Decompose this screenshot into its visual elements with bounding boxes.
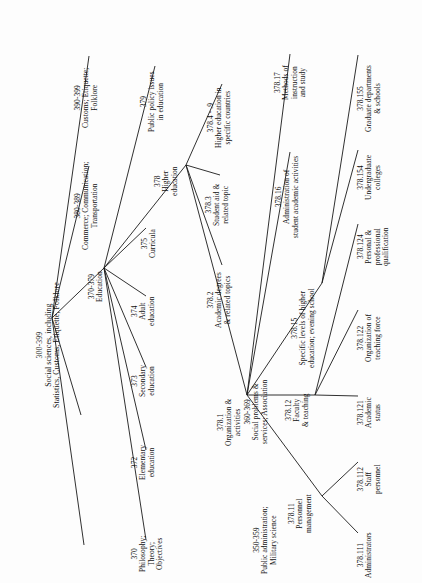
node-label: Faculty & teaching: [293, 393, 310, 427]
node-label: Public administration; Military science: [261, 506, 278, 574]
tree-node-n374[interactable]: 374Adult education: [131, 296, 156, 326]
tree-edge-n37812-to-n378124: [315, 224, 358, 395]
tree-edge-n378-to-n3783: [186, 165, 220, 175]
tree-node-n37811[interactable]: 378.11Personnel management: [288, 494, 313, 533]
tree-node-n375[interactable]: 375Curricula: [141, 229, 158, 258]
tree-node-n37817[interactable]: 378.17Methods of instruction and study: [274, 65, 307, 100]
node-label: Administrators: [365, 532, 373, 578]
tree-node-n372[interactable]: 372Elementary education: [131, 445, 156, 480]
node-label: Personal & professional qualification: [365, 227, 390, 266]
tree-node-n378124[interactable]: 378.124Personal & professional qualifica…: [357, 227, 390, 266]
tree-edge-n37812-to-n378121: [315, 395, 358, 396]
tree-node-n3784[interactable]: 378.4 - .9Higher education in specific c…: [207, 87, 232, 148]
tree-node-root[interactable]: 300-399Social sciences, including Statis…: [36, 282, 62, 408]
tree-node-n378112[interactable]: 378.112Staff personnel: [357, 464, 382, 494]
tree-node-n378155[interactable]: 378.155Graduate departments & schools: [357, 65, 382, 132]
node-label: Organization & activities: [225, 399, 242, 446]
node-label: Adult education: [139, 296, 156, 326]
node-label: Education: [96, 271, 104, 302]
node-label: Personnel management: [296, 494, 313, 533]
tree-node-n370e[interactable]: 370-379Education: [88, 271, 105, 302]
node-label: Public policy issues in education: [148, 71, 165, 132]
diagram-canvas: 300-399Social sciences, including Statis…: [0, 0, 422, 583]
node-label: Specific levels of higher education; eve…: [299, 288, 316, 368]
tree-edge-n37815-to-n378154: [322, 150, 358, 283]
tree-node-n378111[interactable]: 378.111Administrators: [357, 532, 374, 578]
node-label: Staff personnel: [365, 464, 382, 494]
node-label: Curricula: [149, 229, 157, 258]
node-label: Student aid & related topic: [213, 184, 230, 226]
node-label: Secondary education: [139, 365, 156, 397]
tree-edge-n37811-to-n378111: [322, 496, 358, 533]
node-label: Organization of teaching force: [365, 314, 382, 362]
tree-node-n3781[interactable]: 378.1Organization & activities: [217, 399, 242, 446]
tree-node-n3783[interactable]: 378.3Student aid & related topic: [205, 184, 230, 226]
node-label: Higher education: [162, 166, 179, 196]
tree-node-n350[interactable]: 350-359Public administration; Military s…: [253, 506, 278, 574]
node-label: Methods of instruction and study: [282, 65, 307, 100]
node-label: Academic status: [365, 397, 382, 428]
node-label: Customs; Etiquette; Folklore: [82, 68, 99, 128]
tree-node-n378122[interactable]: 378.122Organization of teaching force: [357, 314, 382, 362]
tree-node-n380[interactable]: 380-389Commerce; Communication; Transpor…: [74, 162, 99, 250]
node-label: Social problems & services; Association: [252, 380, 269, 444]
node-label: Philosophy; Theory; Objectives: [139, 536, 164, 572]
node-label: Administration of student academic activ…: [283, 156, 300, 238]
tree-node-n37816[interactable]: 378.16Administration of student academic…: [275, 156, 300, 238]
node-label: Undergraduate colleges: [365, 155, 382, 200]
node-label: Social sciences, including Statistics, C…: [45, 282, 62, 408]
tree-node-n37815[interactable]: 378.15Specific levels of higher educatio…: [291, 288, 316, 368]
tree-node-n37812[interactable]: 378.12Faculty & teaching: [285, 393, 310, 427]
tree-edge-n37811-to-n378112: [322, 462, 358, 496]
tree-node-n360[interactable]: 360-369Social problems & services; Assoc…: [244, 380, 269, 444]
tree-node-n390[interactable]: 390-399Customs; Etiquette; Folklore: [74, 68, 99, 128]
node-label: Higher education in specific countries: [215, 87, 232, 148]
tree-node-n378121[interactable]: 378.121Academic status: [357, 397, 382, 428]
tree-edge-n370e-to-n374: [104, 268, 146, 296]
node-label: Graduate departments & schools: [365, 65, 382, 132]
tree-node-n373[interactable]: 373Secondary education: [131, 365, 156, 397]
tree-edge-n37812-to-n378122: [315, 310, 358, 395]
tree-node-n379[interactable]: 379Public policy issues in education: [140, 71, 165, 132]
node-label: Academic degrees & related topics: [215, 272, 232, 328]
tree-edge-n37815-to-n378155: [322, 55, 358, 283]
node-label: Elementary education: [139, 445, 156, 480]
tree-node-n3782[interactable]: 378.2Academic degrees & related topics: [207, 272, 232, 328]
node-label: Commerce; Communication; Transportation: [82, 162, 99, 250]
tree-node-n378[interactable]: 378Higher education: [154, 166, 179, 196]
tree-node-n378154[interactable]: 378.154Undergraduate colleges: [357, 155, 382, 200]
tree-node-n370[interactable]: 370Philosophy; Theory; Objectives: [131, 536, 164, 572]
tree-edge-n370e-to-n372: [104, 268, 146, 450]
